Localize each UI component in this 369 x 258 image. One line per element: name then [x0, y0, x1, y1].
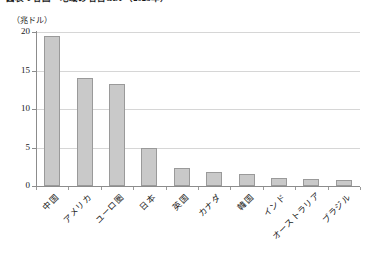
bar	[174, 168, 190, 186]
y-axis-tick-label: 20	[6, 26, 30, 36]
bar-chart-figure: 図表 1 各国・地域の名目GDP（2023年） （兆ドル） 05101520 中…	[0, 0, 369, 258]
x-axis-tick	[263, 187, 264, 190]
x-axis-tick	[295, 187, 296, 190]
x-axis-tick	[230, 187, 231, 190]
x-axis-tick	[198, 187, 199, 190]
chart-title: 図表 1 各国・地域の名目GDP（2023年）	[6, 0, 362, 5]
x-axis-tick	[68, 187, 69, 190]
plot-area	[36, 32, 360, 186]
bar	[44, 36, 60, 186]
y-axis-tick-label: 5	[6, 142, 30, 152]
y-axis-tick	[32, 71, 36, 72]
x-axis-tick	[360, 187, 361, 190]
bar	[239, 174, 255, 186]
y-axis-tick-label: 0	[6, 180, 30, 190]
bar	[77, 78, 93, 186]
y-axis-line	[36, 31, 37, 187]
y-axis-tick	[32, 109, 36, 110]
y-axis-tick-label: 15	[6, 65, 30, 75]
x-axis-tick	[101, 187, 102, 190]
bar	[206, 172, 222, 186]
x-axis-tick	[166, 187, 167, 190]
x-axis-tick	[133, 187, 134, 190]
bar	[109, 84, 125, 186]
y-axis-tick	[32, 148, 36, 149]
x-axis-tick	[328, 187, 329, 190]
gridline	[36, 32, 360, 33]
y-axis-tick	[32, 32, 36, 33]
x-axis-tick	[36, 187, 37, 190]
gridline	[36, 71, 360, 72]
y-axis-tick-label: 10	[6, 103, 30, 113]
bar	[303, 179, 319, 186]
bar	[271, 178, 287, 186]
bar	[141, 148, 157, 186]
